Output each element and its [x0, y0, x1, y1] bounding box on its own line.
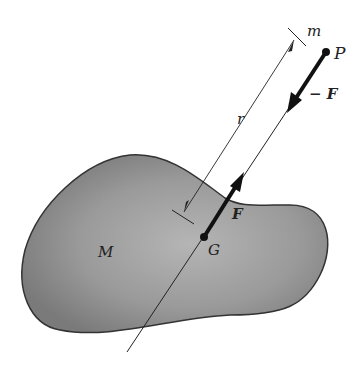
gravitation-diagram: m P − F r F G M — [0, 0, 356, 367]
dimension-arrow-top — [288, 40, 294, 52]
label-P: P — [333, 43, 346, 63]
point-P — [322, 48, 330, 56]
mass-body — [22, 155, 328, 333]
dimension-tick-top — [288, 28, 306, 46]
label-negF: − F — [309, 85, 339, 103]
label-G: G — [208, 241, 220, 259]
label-r: r — [237, 110, 245, 128]
point-G — [200, 233, 208, 241]
label-F: F — [231, 205, 244, 223]
label-m: m — [307, 22, 321, 40]
label-M: M — [97, 243, 114, 261]
